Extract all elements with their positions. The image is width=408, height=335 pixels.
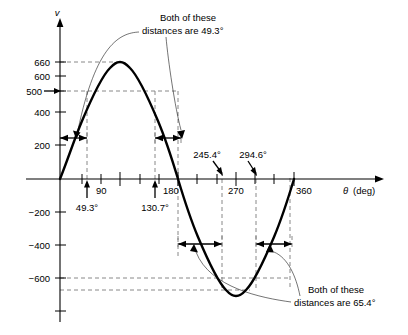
callout-lower-line2: distances are 65.4° (294, 297, 376, 308)
chart-svg: 660 600 500 400 200 −200 −400 −600 v (0, 0, 408, 335)
axes (26, 18, 384, 322)
xlabel-360: 360 (296, 185, 312, 196)
span-lowright-arrow-end (284, 241, 292, 247)
label-500-pointer (44, 88, 61, 94)
ylabel-400: 400 (34, 107, 50, 118)
marker-label-130-7: 130.7° (141, 202, 169, 213)
callout-lower-leader-right (274, 252, 300, 296)
callout-lower-line1: Both of these (308, 284, 364, 295)
arrow-49-3-head (84, 180, 90, 188)
callout-lower: Both of these distances are 65.4° (190, 244, 376, 308)
callout-upper: Both of these distances are 49.3° (73, 12, 224, 139)
x-axis-arrowhead (375, 176, 384, 183)
x-axis-unit: (deg) (353, 185, 375, 196)
ylabel-neg600: −600 (29, 273, 50, 284)
marker-label-294-6: 294.6° (239, 149, 267, 160)
x-axis-title-group: θ (deg) (343, 185, 375, 196)
sine-wave-chart: 660 600 500 400 200 −200 −400 −600 v (0, 0, 408, 335)
measurement-span-upper-right (155, 132, 181, 144)
ylabel-neg400: −400 (29, 240, 50, 251)
marker-label-49-3: 49.3° (76, 202, 98, 213)
marker-label-245-4: 245.4° (193, 149, 221, 160)
below-axis-markers: 49.3° 130.7° (76, 180, 169, 213)
span-lowleft-arrow-end (214, 241, 222, 247)
arrow-294-6-head (251, 167, 258, 176)
span-upright-arrow-start (155, 135, 163, 141)
span-lowright-arrow-start (256, 241, 264, 247)
xlabel-90: 90 (96, 185, 107, 196)
arrow-130-7-head (152, 180, 158, 188)
ylabel-neg200: −200 (29, 207, 50, 218)
callout-upper-line2: distances are 49.3° (142, 25, 224, 36)
ylabel-660: 660 (34, 57, 50, 68)
span-lowleft-arrow-start (178, 241, 186, 247)
ylabel-500: 500 (26, 86, 42, 97)
y-axis-arrowhead (57, 18, 64, 27)
ylabel-600: 600 (34, 71, 50, 82)
span-left-arrow-end (79, 135, 87, 141)
span-upright-arrow-end (173, 135, 181, 141)
callout-lower-leader-left (196, 252, 291, 302)
above-axis-markers: 245.4° 294.6° (193, 149, 267, 176)
ylabel-200: 200 (34, 140, 50, 151)
callout-upper-leader-right (166, 37, 181, 130)
callout-lower-arrow-left (190, 244, 198, 253)
callout-lower-arrow-right (266, 244, 274, 253)
x-axis-title: θ (343, 185, 349, 196)
y-axis-title: v (55, 7, 61, 18)
xlabel-270: 270 (228, 185, 244, 196)
vertical-markers (87, 91, 290, 290)
x-tick-labels: 90 180 270 360 (96, 185, 312, 196)
callout-upper-line1: Both of these (160, 12, 216, 23)
xlabel-180: 180 (163, 185, 179, 196)
span-left-arrow-start (60, 135, 68, 141)
